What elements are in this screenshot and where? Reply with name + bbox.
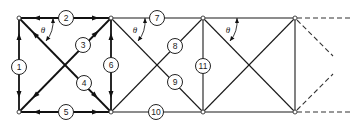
theta-label: θ [41, 25, 46, 35]
arrow-down-icon [109, 91, 114, 98]
svg-text:8: 8 [173, 41, 178, 51]
joint-node [109, 16, 113, 20]
arrow-up-icon [17, 33, 22, 40]
arrow-up-icon [109, 33, 114, 40]
joint-node [17, 110, 21, 114]
member-label-11: 11 [196, 59, 211, 74]
arrow-right-icon [92, 110, 99, 115]
member-label-7: 7 [150, 11, 165, 26]
dashed-diagonal [297, 20, 333, 56]
svg-text:10: 10 [151, 107, 161, 117]
svg-text:7: 7 [155, 13, 160, 23]
joint-node [293, 16, 297, 20]
joint-node [109, 110, 113, 114]
svg-text:5: 5 [64, 107, 69, 117]
panel-1 [17, 16, 114, 115]
continuation-dashed [297, 18, 352, 112]
member-label-2: 2 [59, 11, 74, 26]
svg-text:3: 3 [81, 40, 86, 50]
arrow-right-icon [92, 16, 99, 21]
svg-text:2: 2 [64, 13, 69, 23]
theta-label: θ [133, 25, 138, 35]
member-label-9: 9 [168, 75, 183, 90]
svg-text:4: 4 [82, 78, 87, 88]
member-label-8: 8 [168, 39, 183, 54]
member-label-6: 6 [104, 58, 119, 73]
theta-label: θ [226, 25, 231, 35]
joint-node [201, 110, 205, 114]
arc-arrow-icon [46, 36, 51, 41]
arrow-down-icon [17, 91, 22, 98]
member-label-5: 5 [59, 105, 74, 120]
member-label-1: 1 [12, 60, 27, 75]
joint-node [293, 110, 297, 114]
arc-arrow-icon [143, 18, 147, 23]
panel-3 [203, 18, 295, 112]
svg-text:6: 6 [109, 60, 114, 70]
arc-arrow-icon [138, 36, 143, 41]
arrow-left-icon [33, 16, 40, 21]
svg-text:9: 9 [173, 77, 178, 87]
arc-arrow-icon [230, 36, 235, 41]
svg-text:11: 11 [199, 61, 208, 71]
member-label-10: 10 [149, 105, 164, 120]
svg-text:1: 1 [17, 62, 22, 72]
truss-diagram: θ θ θ 1 2 3 4 5 6 [0, 0, 362, 124]
arrow-left-icon [33, 110, 40, 115]
arc-arrow-icon [235, 18, 239, 23]
dashed-diagonal [297, 74, 333, 110]
panel-2 [111, 18, 203, 112]
joint-node [17, 16, 21, 20]
member-label-3: 3 [76, 38, 91, 53]
joint-node [201, 16, 205, 20]
member-label-4: 4 [77, 76, 92, 91]
